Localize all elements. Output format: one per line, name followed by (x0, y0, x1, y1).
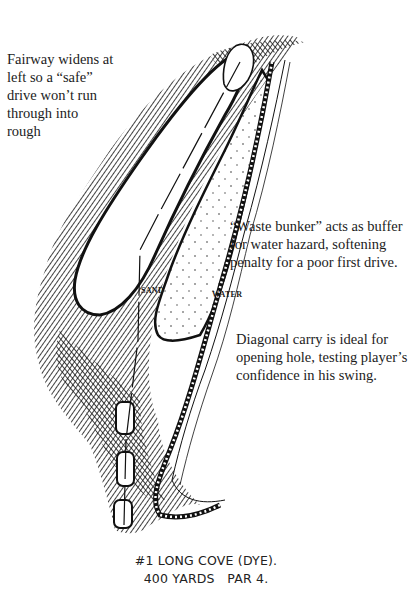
fairway-note: Fairway widens at left so a “safe” drive… (7, 50, 113, 140)
waste-bunker-note: “Waste bunker” acts as buffer for water … (230, 217, 403, 271)
sand-label: SAND (141, 286, 164, 295)
hole-caption: #1 LONG COVE (DYE). 400 YARDS PAR 4. (0, 552, 412, 588)
caption-title: #1 LONG COVE (DYE). (0, 552, 412, 570)
caption-yardage: 400 YARDS PAR 4. (0, 570, 412, 588)
water-label: WATER (212, 290, 242, 299)
diagonal-carry-note: Diagonal carry is ideal for opening hole… (236, 330, 407, 384)
